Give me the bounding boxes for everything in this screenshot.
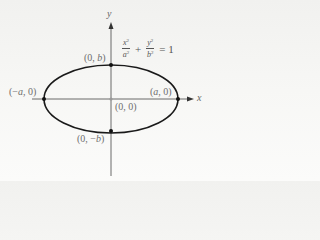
y-axis-arrow-icon xyxy=(109,22,114,29)
equation-plus: + xyxy=(135,43,141,55)
label-origin: (0, 0) xyxy=(115,102,137,112)
x-axis-arrow-icon xyxy=(187,97,194,102)
point-left-vertex xyxy=(42,97,46,101)
x-axis-label: x xyxy=(197,93,201,103)
equation-term-x: x2 a2 xyxy=(122,38,130,59)
equation-term-y: y2 b2 xyxy=(146,38,154,59)
point-right-vertex xyxy=(176,97,180,101)
label-right-vertex: (a, 0) xyxy=(150,87,172,97)
equation-equals: = 1 xyxy=(159,43,173,55)
label-top-vertex: (0, b) xyxy=(84,53,106,63)
point-top-vertex xyxy=(109,63,113,67)
y-axis-label: y xyxy=(107,9,111,19)
label-bottom-vertex: (0, −b) xyxy=(77,134,104,144)
label-left-vertex: (−a, 0) xyxy=(9,87,36,97)
point-bottom-vertex xyxy=(109,129,113,133)
point-origin xyxy=(109,97,112,100)
ellipse-equation: x2 a2 + y2 b2 = 1 xyxy=(121,38,174,59)
